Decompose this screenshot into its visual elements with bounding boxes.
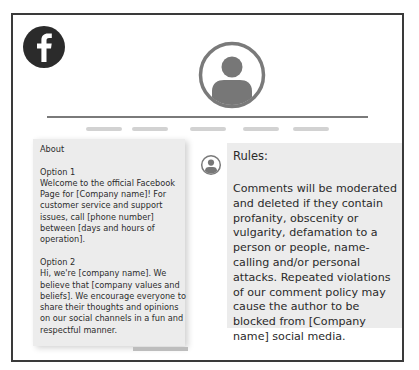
rules-title: Rules: (233, 149, 268, 163)
user-avatar-icon (200, 154, 222, 176)
about-heading: About (40, 144, 186, 155)
nav-tab-placeholder[interactable] (190, 127, 226, 131)
commenter-avatar[interactable] (200, 154, 222, 176)
about-content: About Option 1 Welcome to the official F… (40, 144, 186, 347)
facebook-f-icon (23, 26, 65, 68)
option2-title: Option 2 (40, 257, 75, 267)
user-avatar-icon (198, 41, 266, 109)
nav-tab-placeholder[interactable] (293, 127, 329, 131)
option1-title: Option 1 (40, 167, 75, 177)
nav-tab-placeholder[interactable] (243, 127, 279, 131)
nav-tab-placeholder[interactable] (86, 127, 122, 131)
rules-body: Comments will be moderated and deleted i… (233, 182, 399, 345)
option2-text: Hi, we're [company name]. We believe tha… (40, 268, 186, 334)
about-panel-scrollbar[interactable] (133, 347, 188, 351)
option1-text: Welcome to the official Facebook Page fo… (40, 178, 175, 244)
header-divider (47, 116, 368, 118)
profile-avatar[interactable] (198, 41, 266, 109)
facebook-logo-icon[interactable] (23, 26, 65, 68)
nav-tab-placeholder[interactable] (132, 127, 168, 131)
